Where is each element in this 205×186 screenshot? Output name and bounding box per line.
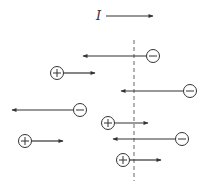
negative-charge [113,133,189,146]
positive-charge [51,67,96,80]
current-label: I [95,8,102,23]
current-indicator: I [95,8,153,23]
charges-group [12,50,197,167]
positive-charge [19,135,64,148]
negative-charge [83,50,160,63]
negative-charge [12,104,87,117]
positive-charge [117,154,162,167]
positive-charge [102,117,149,130]
negative-charge [121,85,197,98]
charge-motion-diagram: I [0,0,205,186]
